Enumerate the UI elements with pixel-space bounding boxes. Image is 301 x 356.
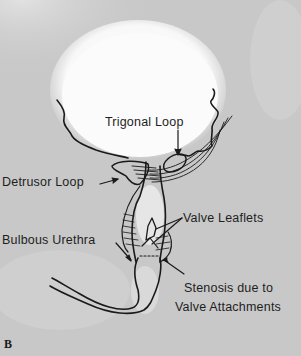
pointer-arrows	[100, 130, 184, 274]
label-bulbous-urethra: Bulbous Urethra	[2, 234, 95, 247]
label-valve-leaflets: Valve Leaflets	[183, 212, 263, 225]
trigonal-loop	[164, 154, 186, 172]
detrusor-loop	[112, 161, 149, 184]
urethral-valve-diagram: Trigonal Loop Detrusor Loop Valve Leafle…	[0, 0, 301, 356]
prostatic-urethra-left-wall	[132, 162, 146, 262]
prostatic-urethra-right-wall	[160, 166, 166, 262]
panel-letter: B	[4, 337, 12, 352]
label-detrusor-loop: Detrusor Loop	[2, 176, 84, 189]
valve-leaflets-arrow-1	[156, 218, 182, 229]
valve-leaflets-arrow-2	[152, 218, 182, 244]
bladder-outline	[57, 100, 128, 158]
outer-fiber-left	[122, 186, 140, 252]
bulbous-urethra-left	[52, 258, 139, 309]
label-stenosis-line1: Stenosis due to	[184, 282, 273, 295]
label-stenosis-line2: Valve Attachments	[175, 301, 281, 314]
valve-leaflet	[146, 218, 156, 240]
label-trigonal-loop: Trigonal Loop	[105, 116, 184, 129]
